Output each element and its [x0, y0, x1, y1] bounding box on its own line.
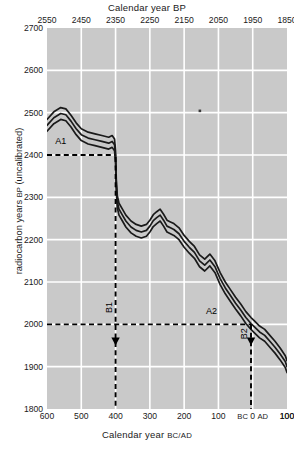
plot-svg: A1A2B1B2: [47, 28, 287, 409]
annotation-label-a1: A1: [55, 136, 66, 146]
annotation-label-b1: B1: [104, 302, 114, 313]
y-tick-2100: 2100: [2, 277, 43, 287]
y-tick-2700: 2700: [2, 23, 43, 33]
top-tick-2450: 2450: [65, 15, 97, 25]
bottom-tick-200: 200: [168, 411, 200, 421]
calibration-curve-figure: Calendar year BP Calendar year BC/AD rad…: [0, 0, 294, 449]
y-tick-2200: 2200: [2, 235, 43, 245]
bottom-tick-100: 100: [202, 411, 234, 421]
top-tick-2050: 2050: [202, 15, 234, 25]
bottom-tick-500: 500: [65, 411, 97, 421]
top-tick-1850: 1850: [271, 15, 294, 25]
plot-area: A1A2B1B2: [47, 28, 287, 409]
bottom-axis-title: Calendar year BC/AD: [0, 429, 294, 440]
annotation-arrow-b1: [111, 337, 119, 345]
top-tick-2250: 2250: [134, 15, 166, 25]
top-tick-2350: 2350: [100, 15, 132, 25]
top-tick-2150: 2150: [168, 15, 200, 25]
bottom-tick-400: 400: [100, 411, 132, 421]
bottom-axis-title-text: Calendar year: [102, 429, 167, 440]
y-tick-2500: 2500: [2, 108, 43, 118]
y-tick-1800: 1800: [2, 404, 43, 414]
y-tick-2600: 2600: [2, 65, 43, 75]
y-tick-2000: 2000: [2, 319, 43, 329]
bottom-axis-title-era: BC/AD: [167, 431, 192, 440]
annotation-label-b2: B2: [240, 328, 250, 339]
bottom-tick-100-ad: 100: [271, 411, 294, 421]
bottom-tick-300: 300: [134, 411, 166, 421]
scan-artifact-speck: [199, 110, 202, 113]
y-tick-1900: 1900: [2, 362, 43, 372]
y-tick-2300: 2300: [2, 192, 43, 202]
annotation-label-a2: A2: [206, 306, 217, 316]
top-axis-title: Calendar year BP: [0, 2, 294, 13]
top-tick-1950: 1950: [237, 15, 269, 25]
bottom-tick-BC-0: BC 0 AD: [231, 411, 275, 421]
y-tick-2400: 2400: [2, 150, 43, 160]
